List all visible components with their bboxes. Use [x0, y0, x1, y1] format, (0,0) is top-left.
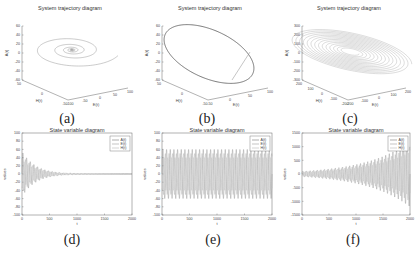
svg-text:40: 40 [16, 33, 20, 37]
chart-title: System trajectory diagram [38, 5, 102, 11]
svg-text:-20: -20 [155, 180, 160, 184]
svg-text:60: 60 [16, 148, 20, 152]
svg-text:500: 500 [294, 159, 300, 163]
svg-text:100: 100 [391, 93, 397, 97]
panel-f: State variable diagram150010005000-500-1… [280, 127, 418, 232]
svg-text:-80: -80 [155, 205, 160, 209]
state-plot-e: State variable diagram100806040200-20-40… [140, 127, 280, 232]
svg-text:100: 100 [294, 42, 300, 46]
caption-a: (a) [47, 111, 87, 127]
svg-text:1500: 1500 [379, 217, 387, 221]
svg-text:0: 0 [158, 172, 160, 176]
panel-d: State variable diagram100806040200-20-40… [0, 127, 140, 232]
caption-c: (c) [330, 111, 370, 127]
svg-text:40: 40 [156, 156, 160, 160]
svg-text:60: 60 [156, 24, 160, 28]
svg-text:2000: 2000 [406, 217, 414, 221]
svg-text:E(t): E(t) [233, 102, 240, 107]
svg-text:40: 40 [16, 156, 20, 160]
svg-text:50: 50 [157, 82, 161, 86]
svg-text:-200: -200 [293, 69, 300, 73]
svg-text:80: 80 [156, 139, 160, 143]
chart-title: System trajectory diagram [317, 5, 381, 11]
svg-text:20: 20 [156, 164, 160, 168]
svg-text:-100: -100 [13, 213, 20, 217]
svg-text:50: 50 [113, 93, 117, 97]
svg-text:values: values [282, 168, 287, 180]
legend: A(t)E(t)H(t) [250, 136, 270, 151]
svg-text:H(t): H(t) [36, 98, 43, 103]
chart-title: State variable diagram [189, 127, 244, 133]
svg-text:-50: -50 [82, 99, 87, 103]
svg-text:H(t): H(t) [176, 98, 183, 103]
caption-f: (f) [333, 232, 373, 248]
svg-text:-40: -40 [155, 189, 160, 193]
svg-text:100: 100 [267, 90, 273, 94]
svg-text:500: 500 [187, 217, 193, 221]
svg-text:-80: -80 [15, 205, 20, 209]
svg-text:0: 0 [21, 217, 23, 221]
svg-text:60: 60 [156, 148, 160, 152]
svg-text:0: 0 [181, 92, 183, 96]
svg-text:20: 20 [16, 42, 20, 46]
svg-text:1500: 1500 [101, 217, 109, 221]
svg-text:H(t): H(t) [261, 146, 267, 150]
svg-text:-100: -100 [361, 99, 368, 103]
svg-text:60: 60 [16, 24, 20, 28]
panel-b: System trajectory diagram6040200-20-40-6… [140, 0, 280, 112]
svg-text:1500: 1500 [241, 217, 249, 221]
svg-text:100: 100 [14, 131, 20, 135]
svg-text:-60: -60 [155, 197, 160, 201]
svg-text:0: 0 [378, 96, 380, 100]
svg-text:20: 20 [16, 164, 20, 168]
trajectory-curve [37, 39, 118, 66]
svg-text:200: 200 [294, 33, 300, 37]
panel-c: System trajectory diagram3002001000-100-… [280, 0, 418, 112]
svg-text:A(t): A(t) [284, 49, 289, 56]
svg-text:500: 500 [47, 217, 53, 221]
svg-text:0: 0 [301, 217, 303, 221]
legend: A(t)E(t)H(t) [388, 136, 408, 151]
svg-text:40: 40 [156, 33, 160, 37]
limit-cycle-curve [164, 25, 254, 84]
svg-text:0: 0 [321, 92, 323, 96]
state-plot-d: State variable diagram100806040200-20-40… [0, 127, 140, 232]
svg-text:-100: -100 [66, 102, 73, 106]
svg-text:values: values [2, 168, 7, 180]
svg-text:0: 0 [18, 172, 20, 176]
svg-text:0: 0 [41, 92, 43, 96]
svg-text:-500: -500 [293, 186, 300, 190]
svg-text:0: 0 [99, 96, 101, 100]
svg-text:t: t [216, 221, 218, 226]
svg-text:-20: -20 [155, 60, 160, 64]
svg-text:-40: -40 [155, 69, 160, 73]
svg-text:E(t): E(t) [93, 102, 100, 107]
svg-text:A(t): A(t) [4, 49, 9, 56]
svg-text:100: 100 [127, 90, 133, 94]
svg-text:-40: -40 [15, 189, 20, 193]
svg-text:-40: -40 [15, 69, 20, 73]
svg-text:1000: 1000 [292, 145, 300, 149]
panel-e: State variable diagram100806040200-20-40… [140, 127, 280, 232]
caption-d: (d) [52, 232, 92, 248]
svg-text:-100: -100 [153, 213, 160, 217]
chart-title: State variable diagram [328, 127, 383, 133]
svg-text:200: 200 [405, 90, 411, 94]
svg-text:values: values [142, 168, 147, 180]
svg-text:0: 0 [18, 51, 20, 55]
svg-text:0: 0 [298, 172, 300, 176]
chart-title: System trajectory diagram [178, 5, 242, 11]
svg-text:20: 20 [156, 42, 160, 46]
svg-text:500: 500 [326, 217, 332, 221]
svg-text:-200: -200 [346, 102, 353, 106]
svg-text:H(t): H(t) [399, 146, 405, 150]
svg-text:-20: -20 [15, 60, 20, 64]
legend: A(t)E(t)H(t) [110, 136, 130, 151]
svg-text:t: t [76, 221, 78, 226]
svg-text:-100: -100 [293, 60, 300, 64]
svg-text:2000: 2000 [268, 217, 276, 221]
axes-3d [22, 26, 128, 100]
svg-text:2000: 2000 [128, 217, 136, 221]
svg-text:0: 0 [229, 98, 231, 102]
svg-text:E(t): E(t) [372, 102, 379, 107]
